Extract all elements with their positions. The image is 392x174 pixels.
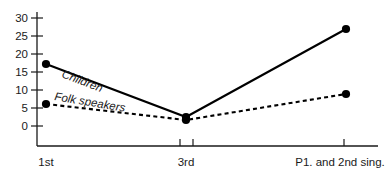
y-tick-label-0: 0 xyxy=(22,120,28,132)
data-point-children-p1-2nd-sing xyxy=(342,25,350,33)
series-annotation-children: Children xyxy=(60,68,104,94)
y-tick-label-5: 5 xyxy=(22,102,28,114)
x-category-label-p1-2nd-sing: P1. and 2nd sing. xyxy=(295,156,385,168)
x-category-label-3rd: 3rd xyxy=(178,156,195,168)
data-point-folk-speakers-1st xyxy=(42,100,50,108)
y-tick-label-25: 25 xyxy=(15,30,28,42)
y-tick-label-10: 10 xyxy=(15,84,28,96)
x-category-label-1st: 1st xyxy=(38,156,54,168)
data-point-folk-speakers-3rd xyxy=(182,116,190,124)
y-tick-label-30: 30 xyxy=(15,12,28,24)
y-tick-label-15: 15 xyxy=(15,66,28,78)
data-point-folk-speakers-p1-2nd-sing xyxy=(342,90,350,98)
y-tick-label-20: 20 xyxy=(15,48,28,60)
chart-canvas: 30 25 20 15 10 5 0 1st 3rd P1. and 2nd s… xyxy=(0,0,392,174)
line-chart: 30 25 20 15 10 5 0 1st 3rd P1. and 2nd s… xyxy=(0,0,392,174)
data-point-children-1st xyxy=(42,60,50,68)
series-annotation-folk-speakers: Folk speakers xyxy=(54,90,127,114)
